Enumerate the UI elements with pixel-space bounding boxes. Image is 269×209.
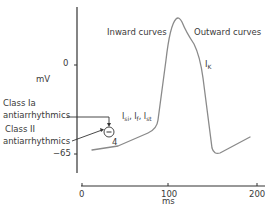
ist-subscript: st: [146, 115, 151, 122]
x-tick-label-0: 0: [79, 189, 84, 199]
outward-curves-label: Outward curves: [194, 27, 261, 37]
y-tick-label-neg65: −65: [53, 148, 71, 158]
class-ii-label-line2: antiarrhythmics: [3, 136, 70, 146]
class-ia-leader: [67, 117, 109, 124]
inward-currents-label: Isi, If, Ist: [122, 112, 152, 124]
class-ia-arrowhead: [107, 123, 111, 127]
y-tick-label-0: 0: [63, 58, 68, 68]
ik-current-label: IK: [205, 59, 211, 72]
phase-4-label: 4: [112, 137, 117, 147]
class-ia-label-line2: antiarrhythmics: [3, 110, 70, 120]
class-ii-arrowhead: [100, 128, 104, 132]
y-axis-label: mV: [36, 74, 50, 84]
ik-subscript: K: [208, 63, 212, 70]
class-ii-label-line1: Class II: [5, 124, 35, 134]
inward-curves-label: Inward curves: [107, 27, 167, 37]
class-ia-label-line1: Class Ia: [3, 98, 36, 108]
x-tick-label-200: 200: [249, 189, 265, 199]
action-potential-curve: [92, 18, 250, 153]
x-tick-label-100: 100: [161, 189, 177, 199]
